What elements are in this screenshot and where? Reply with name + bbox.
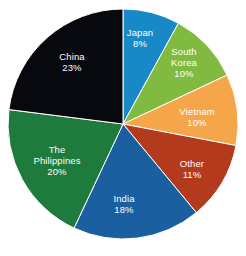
pie-chart-canvas — [0, 0, 246, 256]
pie-slice — [9, 9, 123, 124]
pie-chart: Japan8%SouthKorea10%Vietnam10%Other11%In… — [0, 0, 246, 256]
